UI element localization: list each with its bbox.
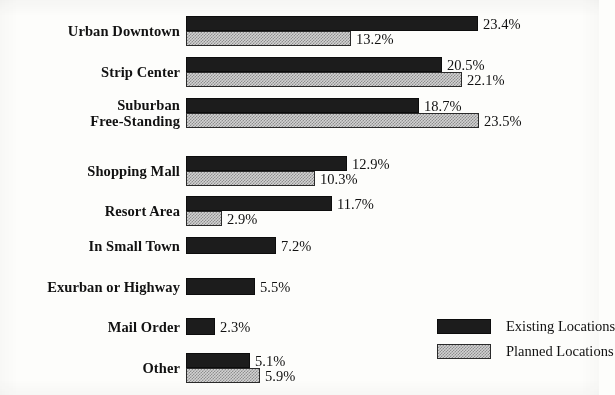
category-label: Exurban or Highway	[0, 279, 180, 295]
category-label-line: In Small Town	[88, 238, 180, 254]
chart-row: Resort Area11.7%2.9%	[0, 196, 599, 226]
bar-existing	[186, 98, 419, 113]
chart-row: Strip Center20.5%22.1%	[0, 57, 599, 87]
bar-planned	[186, 368, 260, 383]
chart-row: In Small Town7.2%	[0, 237, 599, 254]
value-label: 22.1%	[467, 73, 504, 88]
bar-existing	[186, 353, 250, 368]
value-label: 23.4%	[483, 17, 520, 32]
value-label: 7.2%	[281, 239, 311, 254]
bar-planned	[186, 211, 222, 226]
chart-row: Urban Downtown23.4%13.2%	[0, 16, 599, 46]
category-label: Shopping Mall	[0, 163, 180, 179]
legend-swatch-existing	[437, 319, 491, 334]
bar-existing	[186, 16, 478, 31]
value-label: 23.5%	[484, 114, 521, 129]
category-label: Mail Order	[0, 319, 180, 335]
bar-existing	[186, 278, 255, 295]
category-label-line: Suburban	[117, 97, 180, 113]
value-label: 2.3%	[220, 320, 250, 335]
value-label: 12.9%	[352, 157, 389, 172]
bar-existing	[186, 196, 332, 211]
value-label: 10.3%	[320, 172, 357, 187]
category-label-line: Strip Center	[101, 64, 180, 80]
category-label-line: Exurban or Highway	[47, 279, 180, 295]
value-label: 2.9%	[227, 212, 257, 227]
category-label: Resort Area	[0, 203, 180, 219]
value-label: 5.9%	[265, 369, 295, 384]
value-label: 11.7%	[337, 197, 374, 212]
bar-existing	[186, 57, 442, 72]
value-label: 13.2%	[356, 32, 393, 47]
category-label-line: Resort Area	[105, 203, 180, 219]
legend-swatch-planned	[437, 344, 491, 359]
category-label-line: Free-Standing	[0, 113, 180, 129]
bar-existing	[186, 318, 215, 335]
bar-existing	[186, 156, 347, 171]
chart-row: Exurban or Highway5.5%	[0, 278, 599, 295]
chart-row: SuburbanFree-Standing18.7%23.5%	[0, 98, 599, 128]
legend-label: Existing Locations	[506, 317, 615, 335]
category-label-line: Mail Order	[108, 319, 180, 335]
bar-planned	[186, 113, 479, 128]
category-label: Other	[0, 360, 180, 376]
category-label-line: Other	[142, 360, 180, 376]
bar-planned	[186, 171, 315, 186]
value-label: 5.1%	[255, 354, 285, 369]
category-label-line: Shopping Mall	[87, 163, 180, 179]
bar-planned	[186, 31, 351, 46]
legend-label: Planned Locations	[506, 342, 614, 360]
bar-planned	[186, 72, 462, 87]
category-label-line: Urban Downtown	[68, 23, 180, 39]
category-label: Strip Center	[0, 64, 180, 80]
category-label: SuburbanFree-Standing	[0, 97, 180, 129]
value-label: 5.5%	[260, 280, 290, 295]
bar-existing	[186, 237, 276, 254]
category-label: In Small Town	[0, 238, 180, 254]
value-label: 20.5%	[447, 58, 484, 73]
chart-row: Shopping Mall12.9%10.3%	[0, 156, 599, 186]
value-label: 18.7%	[424, 99, 461, 114]
category-label: Urban Downtown	[0, 23, 180, 39]
